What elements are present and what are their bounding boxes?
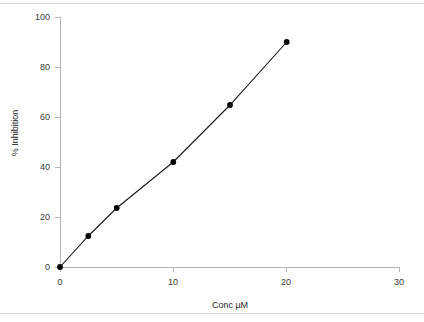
y-tick-label-80: 80 xyxy=(26,62,50,72)
chart-figure: 100 80 60 40 20 0 0 10 20 30 % Inhibitio… xyxy=(0,0,424,322)
y-tick-label-100: 100 xyxy=(26,12,50,22)
y-axis-ticks xyxy=(55,18,60,268)
y-tick-label-0: 0 xyxy=(26,262,50,272)
x-tick-label-30: 30 xyxy=(387,277,411,287)
data-point xyxy=(57,264,63,270)
y-tick-label-40: 40 xyxy=(26,162,50,172)
data-point-markers xyxy=(57,39,290,270)
x-tick-label-20: 20 xyxy=(274,277,298,287)
data-point xyxy=(114,205,120,211)
data-trendline xyxy=(60,42,287,267)
y-tick-label-20: 20 xyxy=(26,212,50,222)
y-tick-label-60: 60 xyxy=(26,112,50,122)
x-tick-label-10: 10 xyxy=(161,277,185,287)
data-point xyxy=(284,39,290,45)
data-point xyxy=(227,102,233,108)
scatter-plot-canvas xyxy=(0,0,424,322)
y-axis-title: % Inhibition xyxy=(10,88,20,178)
data-point xyxy=(85,233,91,239)
x-tick-label-0: 0 xyxy=(48,277,72,287)
data-point xyxy=(170,159,176,165)
x-axis-title: Conc µM xyxy=(60,300,400,310)
